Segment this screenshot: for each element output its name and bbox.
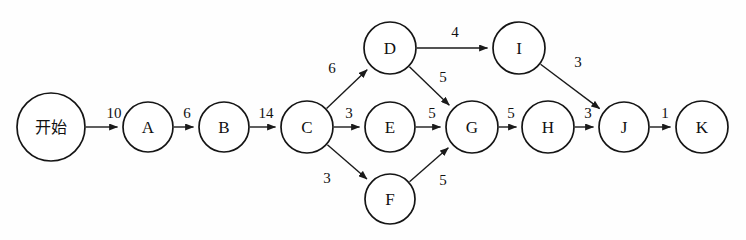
node-D[interactable]: D — [364, 22, 416, 74]
node-label-start: 开始 — [35, 118, 67, 137]
node-C[interactable]: C — [281, 101, 333, 153]
edge-C-to-F — [327, 145, 367, 179]
diagram-canvas: 开始ABCDEFGHIJK 1061463345555331 — [0, 0, 746, 240]
node-label-F: F — [385, 190, 394, 209]
node-B[interactable]: B — [199, 102, 249, 152]
node-G[interactable]: G — [446, 101, 498, 153]
node-K[interactable]: K — [676, 101, 728, 153]
node-E[interactable]: E — [365, 102, 415, 152]
node-label-D: D — [384, 39, 396, 58]
edge-weight-B-C: 14 — [259, 105, 275, 121]
node-A[interactable]: A — [123, 102, 173, 152]
node-label-H: H — [542, 118, 554, 137]
node-layer: 开始ABCDEFGHIJK — [17, 22, 728, 224]
node-label-I: I — [516, 39, 522, 58]
edge-weight-C-E: 3 — [345, 105, 353, 121]
edge-weight-A-B: 6 — [183, 105, 191, 121]
node-label-K: K — [696, 118, 709, 137]
edge-weight-C-D: 6 — [328, 60, 336, 76]
node-label-A: A — [142, 118, 155, 137]
edge-weight-I-J: 3 — [574, 54, 582, 70]
node-label-G: G — [466, 118, 478, 137]
activity-network-graph: 开始ABCDEFGHIJK 1061463345555331 — [0, 0, 746, 240]
node-start[interactable]: 开始 — [17, 93, 85, 161]
node-F[interactable]: F — [365, 174, 415, 224]
edge-weight-D-I: 4 — [451, 24, 459, 40]
node-J[interactable]: J — [599, 102, 649, 152]
edge-weight-E-G: 5 — [428, 105, 436, 121]
edge-weight-J-K: 1 — [661, 105, 669, 121]
edge-weight-C-F: 3 — [323, 170, 331, 186]
edge-weight-F-G: 5 — [439, 172, 447, 188]
node-label-J: J — [621, 118, 628, 137]
edge-weight-G-H: 5 — [507, 105, 515, 121]
node-label-B: B — [218, 118, 229, 137]
edge-weight-start-A: 10 — [107, 105, 122, 121]
node-label-E: E — [385, 118, 395, 137]
edge-weight-D-G: 5 — [439, 69, 447, 85]
node-H[interactable]: H — [522, 101, 574, 153]
node-label-C: C — [301, 118, 312, 137]
edge-weight-H-J: 3 — [584, 105, 592, 121]
node-I[interactable]: I — [493, 22, 545, 74]
